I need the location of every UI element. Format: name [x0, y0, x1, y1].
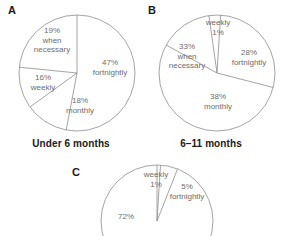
panel-a-caption: Under 6 months [6, 138, 136, 149]
panel-b-caption: 6–11 months [146, 138, 276, 149]
pie-a-fortnightly-percent: 47% [102, 58, 118, 67]
pie-a-necessary-percent: 19% [44, 26, 60, 35]
pie-c-fortnightly-name: fortnightly [170, 192, 205, 201]
panel-letter-b: B [148, 4, 156, 16]
pie-a-necessary-line1: when [42, 36, 61, 45]
pie-b-weekly-percent: 1% [212, 28, 224, 37]
pie-b-monthly-percent: 38% [210, 92, 226, 101]
pie-b-weekly-name: weekly [206, 18, 230, 27]
pie-c-weekly-name: weekly [144, 170, 168, 179]
pie-b-fortnightly-percent: 28% [241, 48, 257, 57]
pie-a-weekly-name: weekly [31, 83, 55, 92]
pie-b-fortnightly-name: fortnightly [232, 58, 267, 67]
pie-c-fortnightly-percent: 5% [181, 182, 193, 191]
pie-a-label-monthly: 18% monthly [54, 96, 106, 115]
panel-letter-c: C [72, 166, 80, 178]
pie-a-monthly-name: monthly [66, 106, 94, 115]
pie-chart-c: weekly 1% 5% fortnightly 72% [98, 162, 216, 236]
pie-a-monthly-percent: 18% [72, 96, 88, 105]
pie-a-necessary-line2: necessary [34, 45, 70, 54]
pie-b-label-necessary: 33% when necessary [159, 42, 215, 71]
pie-a-fortnightly-name: fortnightly [93, 68, 128, 77]
pie-b-necessary-line2: necessary [169, 61, 205, 70]
pie-b-divider-fortnightly-monthly [217, 73, 273, 88]
pie-a-label-necessary: 19% when necessary [24, 26, 80, 55]
panel-letter-a: A [8, 4, 16, 16]
pie-a-weekly-percent: 16% [35, 73, 51, 82]
pie-c-necessary-percent: 72% [118, 212, 134, 221]
pie-b-monthly-name: monthly [204, 102, 232, 111]
pie-a-label-fortnightly: 47% fortnightly [82, 58, 138, 77]
pie-b-necessary-percent: 33% [179, 42, 195, 51]
pie-c-label-fortnightly: 5% fortnightly [160, 182, 214, 201]
pie-a-label-weekly: 16% weekly [20, 73, 66, 92]
pie-b-necessary-line1: when [177, 52, 196, 61]
pie-c-label-necessary: 72% [104, 212, 148, 222]
pie-chart-a: 47% fortnightly 18% monthly 16% weekly 1… [16, 12, 138, 134]
pie-b-label-monthly: 38% monthly [192, 92, 244, 111]
pie-b-label-weekly: weekly 1% [194, 18, 242, 37]
pie-chart-b: weekly 1% 28% fortnightly 38% monthly 33… [156, 12, 278, 134]
pie-b-label-fortnightly: 28% fortnightly [222, 48, 276, 67]
